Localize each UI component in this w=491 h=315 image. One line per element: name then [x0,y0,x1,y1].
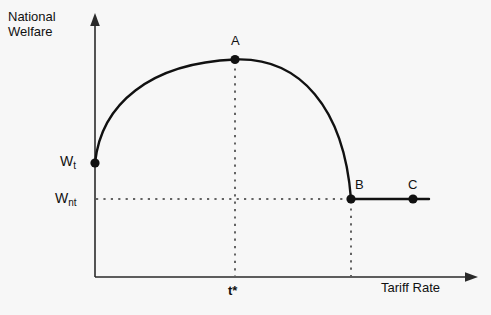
x-tick-label-tstar: t* [228,284,237,299]
y-tick-label-wt-sub: t [73,160,76,171]
point-marker-a [230,55,239,64]
y-tick-label-wnt-sub: nt [68,197,76,208]
point-label-b: B [355,178,364,193]
point-marker-c [408,194,417,203]
y-axis-title-line1: National [8,10,56,25]
x-axis-title: Tariff Rate [381,281,440,296]
welfare-curve [95,59,351,199]
y-axis-title: National Welfare [8,10,56,40]
y-tick-label-wnt-base: W [55,190,68,206]
y-tick-label-wt-base: W [60,153,73,169]
welfare-tariff-chart: National Welfare Tariff Rate A B C t* Wt… [0,0,491,315]
point-label-c: C [408,178,417,193]
point-label-a: A [231,34,240,49]
point-marker-b [346,194,355,203]
point-marker-wt [90,158,99,167]
y-tick-label-wt: Wt [60,153,76,169]
y-axis-title-line2: Welfare [8,25,56,40]
y-tick-label-wnt: Wnt [55,190,77,206]
